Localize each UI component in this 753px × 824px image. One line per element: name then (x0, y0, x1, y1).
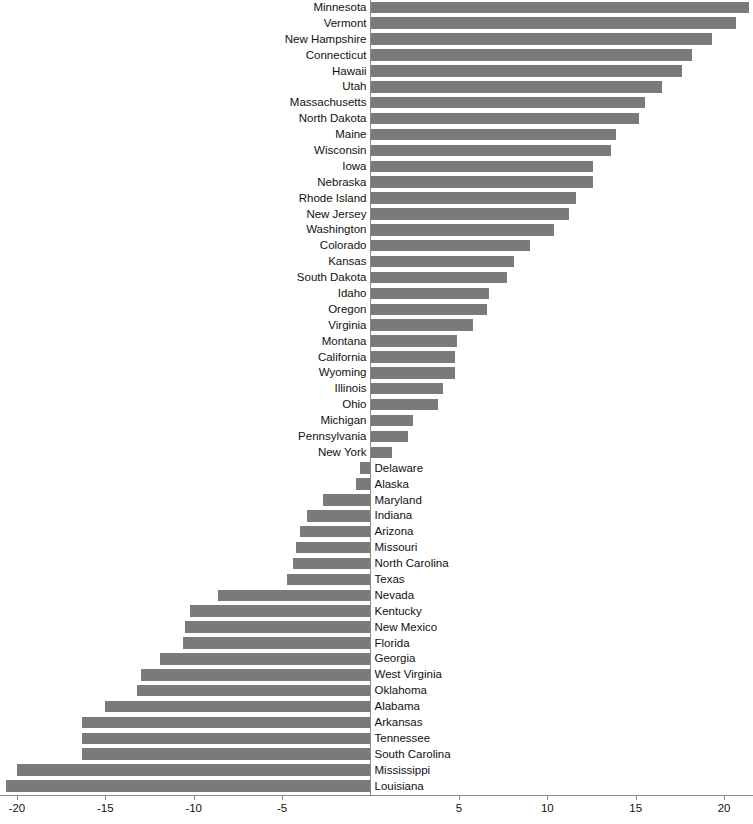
bar (371, 129, 617, 141)
bar-row: Illinois (0, 381, 753, 397)
bar-chart: MinnesotaVermontNew HampshireConnecticut… (0, 0, 753, 824)
bar (300, 526, 371, 538)
bar-row: Maryland (0, 493, 753, 509)
bar (371, 192, 576, 204)
bar-category-label: North Dakota (299, 111, 367, 125)
bar-category-label: Georgia (375, 651, 416, 665)
bar-category-label: Indiana (375, 508, 413, 522)
x-axis-tick-mark (105, 796, 106, 800)
bar (356, 478, 370, 490)
bar-category-label: Arizona (375, 524, 414, 538)
x-axis-tick-mark (17, 796, 18, 800)
bar (371, 272, 507, 284)
bar (371, 208, 569, 220)
bar-row: Alaska (0, 477, 753, 493)
bar-category-label: Texas (375, 572, 405, 586)
bar (371, 97, 645, 109)
bar-row: North Carolina (0, 556, 753, 572)
x-axis-tick-label: -15 (97, 801, 114, 815)
bar-row: Montana (0, 334, 753, 350)
bar (371, 224, 555, 236)
bar-category-label: New Jersey (306, 207, 366, 221)
bar-row: Oklahoma (0, 683, 753, 699)
bar (82, 733, 370, 745)
bar-row: South Dakota (0, 270, 753, 286)
bar-row: Wyoming (0, 365, 753, 381)
bar (371, 33, 712, 45)
bar (293, 558, 371, 570)
bar-row: New Jersey (0, 207, 753, 223)
bar-category-label: Nebraska (317, 175, 366, 189)
bar (371, 145, 611, 157)
bar (371, 256, 514, 268)
bar-row: Mississippi (0, 763, 753, 779)
bar (371, 49, 693, 61)
bar-category-label: Connecticut (306, 48, 367, 62)
bar (371, 383, 443, 395)
x-axis-ticks: -20-15-10-55101520 (0, 796, 753, 824)
x-axis-tick-label: -20 (9, 801, 26, 815)
x-axis-tick-mark (459, 796, 460, 800)
bar-row: Maine (0, 127, 753, 143)
bar-category-label: Alaska (375, 477, 410, 491)
bar-category-label: Illinois (335, 381, 367, 395)
bar-category-label: Florida (375, 636, 410, 650)
bar-row: Kansas (0, 254, 753, 270)
bar (371, 161, 594, 173)
bar (371, 367, 456, 379)
bar (371, 2, 749, 14)
bar-row: Arkansas (0, 715, 753, 731)
bar-category-label: Iowa (342, 159, 366, 173)
bar-row: West Virginia (0, 667, 753, 683)
x-axis-tick-mark (194, 796, 195, 800)
bar-row: Colorado (0, 238, 753, 254)
bar (371, 351, 456, 363)
bar (371, 304, 488, 316)
bar (218, 590, 370, 602)
bar-category-label: Michigan (320, 413, 366, 427)
bar-row: Minnesota (0, 0, 753, 16)
bar (185, 621, 371, 633)
bar-row: Florida (0, 636, 753, 652)
x-axis-tick-label: 5 (456, 801, 462, 815)
bar (371, 335, 458, 347)
bar-row: California (0, 350, 753, 366)
bar-category-label: California (318, 350, 367, 364)
bar-row: Idaho (0, 286, 753, 302)
bar-row: Texas (0, 572, 753, 588)
bar (371, 176, 594, 188)
bar-row: Alabama (0, 699, 753, 715)
bar-category-label: Utah (342, 79, 366, 93)
bar-row: Indiana (0, 509, 753, 525)
bar-row: Missouri (0, 540, 753, 556)
bar (137, 685, 370, 697)
bar-row: South Carolina (0, 747, 753, 763)
bar (371, 65, 682, 77)
bar (371, 17, 737, 29)
bar-category-label: Oregon (328, 302, 366, 316)
bar (141, 669, 371, 681)
bar-row: Wisconsin (0, 143, 753, 159)
bar-category-label: Washington (306, 222, 366, 236)
bar-row: Connecticut (0, 48, 753, 64)
bar-category-label: Wisconsin (314, 143, 366, 157)
bar-category-label: New Hampshire (285, 32, 367, 46)
bar-row: Delaware (0, 461, 753, 477)
bar (371, 431, 408, 443)
bar-row: Kentucky (0, 604, 753, 620)
x-axis-tick-label: 10 (541, 801, 554, 815)
x-axis-tick-label: 20 (718, 801, 731, 815)
bar (105, 701, 370, 713)
bar (371, 447, 392, 459)
bar-row: Iowa (0, 159, 753, 175)
bar-category-label: West Virginia (375, 667, 442, 681)
bar-row: Michigan (0, 413, 753, 429)
bar-row: Tennessee (0, 731, 753, 747)
bar-row: Rhode Island (0, 191, 753, 207)
bar-row: Hawaii (0, 64, 753, 80)
bar-row: Massachusetts (0, 95, 753, 111)
bar-row: North Dakota (0, 111, 753, 127)
bar-category-label: Oklahoma (375, 683, 427, 697)
bar-row: Louisiana (0, 779, 753, 795)
bar-category-label: Arkansas (375, 715, 423, 729)
